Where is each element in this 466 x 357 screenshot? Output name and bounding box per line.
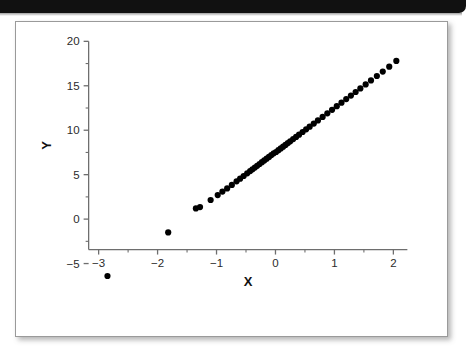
figure-panel: [15, 21, 448, 337]
page-header-shadow: [0, 13, 462, 16]
page-header-bar: [0, 0, 466, 13]
